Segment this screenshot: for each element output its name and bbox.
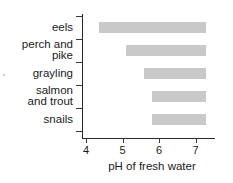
bar-grayling xyxy=(144,68,206,79)
bar-eels xyxy=(99,22,207,33)
y-axis-tick xyxy=(76,16,82,17)
bar-snails xyxy=(152,114,207,125)
y-axis-tick xyxy=(76,85,82,86)
category-label-salmon-and-trout: salmon and trout xyxy=(0,85,73,108)
y-axis-line xyxy=(82,14,83,139)
x-axis-tick xyxy=(196,138,197,143)
x-axis-tick xyxy=(159,138,160,143)
category-label-eels: eels xyxy=(0,22,73,34)
x-axis-tick xyxy=(86,138,87,143)
y-axis-tick xyxy=(76,39,82,40)
x-axis-tick-label-5: 5 xyxy=(113,144,133,156)
y-axis-tick xyxy=(76,108,82,109)
x-axis-tick-label-4: 4 xyxy=(76,144,96,156)
bar-perch-and-pike xyxy=(126,45,206,56)
bar-salmon-and-trout xyxy=(152,91,207,102)
category-label-grayling: grayling xyxy=(0,68,73,80)
y-axis-tick xyxy=(76,131,82,132)
x-axis-tick-label-7: 7 xyxy=(186,144,206,156)
x-axis-title: pH of fresh water xyxy=(82,160,222,173)
x-axis-tick xyxy=(123,138,124,143)
category-label-snails: snails xyxy=(0,114,73,126)
category-label-perch-and-pike: perch and pike xyxy=(0,39,73,62)
y-axis-tick xyxy=(76,62,82,63)
ph-tolerance-bar-chart: 4 5 6 7 eels perch and pike grayling sal… xyxy=(0,0,233,183)
x-axis-tick-label-6: 6 xyxy=(149,144,169,156)
